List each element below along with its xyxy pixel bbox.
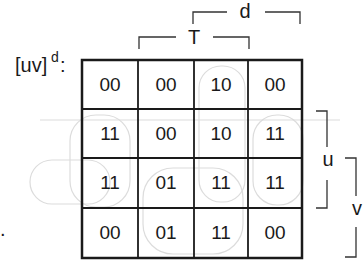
v-bracket-bottom <box>345 227 356 257</box>
map-title: [uv] d : <box>15 49 66 76</box>
title-superscript: d <box>51 49 59 65</box>
side-mark: . <box>0 218 6 240</box>
grouping-loops <box>30 66 340 254</box>
cell-r1-c2: 10 <box>210 123 231 144</box>
cell-r3-c1: 01 <box>155 222 176 243</box>
label-T: T <box>188 26 200 48</box>
cell-r2-c3: 11 <box>265 172 285 193</box>
d-bracket-left <box>193 12 227 24</box>
title-suffix: : <box>60 54 66 76</box>
cell-r2-c0: 11 <box>100 172 120 193</box>
label-u: u <box>322 148 333 170</box>
u-bracket-bottom <box>316 180 327 208</box>
v-bracket-top <box>345 158 356 196</box>
title-base: [uv] <box>15 54 47 76</box>
karnaugh-map-diagram: 00 00 10 00 11 00 10 11 11 01 11 11 00 0… <box>0 0 364 269</box>
cell-r0-c2: 10 <box>210 74 231 95</box>
cell-r0-c0: 00 <box>99 74 120 95</box>
u-bracket-top <box>316 111 327 147</box>
cell-r1-c1: 00 <box>155 123 176 144</box>
T-bracket-left <box>139 37 176 49</box>
cell-r3-c2: 11 <box>211 222 231 243</box>
label-v: v <box>352 197 362 219</box>
cell-r3-c0: 00 <box>99 222 120 243</box>
cell-r0-c1: 00 <box>155 74 176 95</box>
T-bracket-right <box>213 37 249 49</box>
label-d: d <box>239 0 250 22</box>
cell-r3-c3: 00 <box>264 222 285 243</box>
d-bracket-right <box>265 12 300 24</box>
cell-r2-c1: 01 <box>155 172 176 193</box>
cell-r2-c2: 11 <box>211 172 231 193</box>
cell-r0-c3: 00 <box>264 74 285 95</box>
cell-r1-c3: 11 <box>265 123 285 144</box>
cell-r1-c0: 11 <box>100 123 120 144</box>
